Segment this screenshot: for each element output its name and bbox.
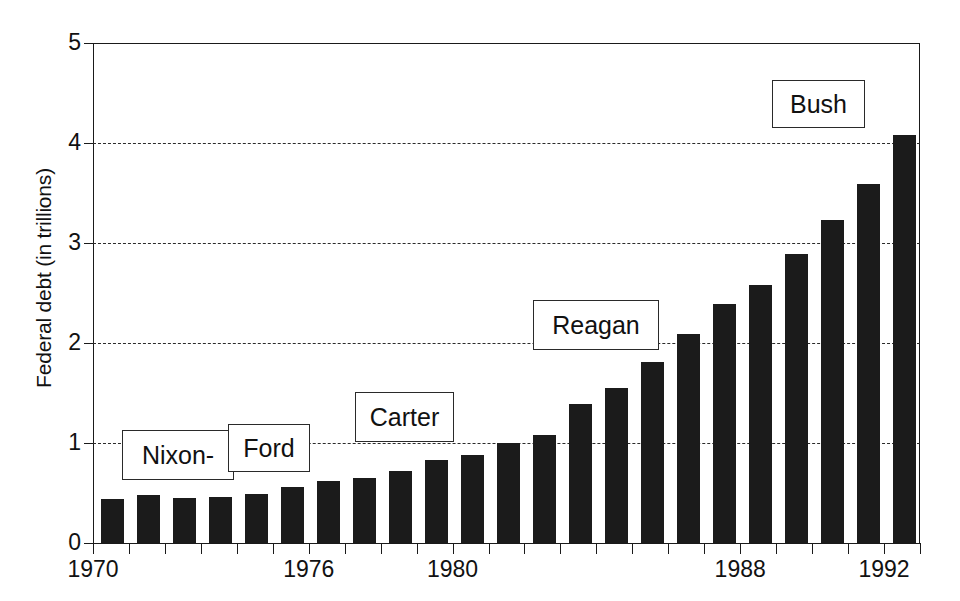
x-tick-mark-10 [453,543,454,554]
bar-1989 [785,254,808,543]
x-tick-label-1980: 1980 [408,556,498,582]
bar-1978 [389,471,412,543]
y-tick-label-4: 4 [25,131,81,154]
x-tick-label-1976: 1976 [264,556,354,582]
x-tick-mark-13 [560,543,561,554]
x-tick-mark-3 [201,543,202,554]
x-tick-mark-14 [596,543,597,554]
x-tick-label-1988: 1988 [695,556,785,582]
y-tick-mark-5 [84,43,93,44]
bar-1988 [749,285,772,543]
gridline-4 [93,143,920,144]
bar-1975 [281,487,304,543]
x-tick-mark-21 [848,543,849,554]
annotation-bush: Bush [772,80,865,128]
x-tick-label-1970: 1970 [48,556,138,582]
bar-1973 [209,497,232,543]
annotation-nixon: Nixon- [122,430,234,480]
x-tick-mark-18 [740,543,741,554]
bar-1972 [173,498,196,543]
x-tick-mark-9 [417,543,418,554]
annotation-reagan: Reagan [533,300,659,350]
annotation-ford: Ford [228,424,310,472]
x-tick-mark-17 [704,543,705,554]
y-tick-mark-2 [84,343,93,344]
bar-1970 [101,499,124,543]
x-axis-line [93,543,921,544]
x-tick-mark-7 [345,543,346,554]
bar-1971 [137,495,160,543]
federal-debt-bar-chart: Federal debt (in trillions) 012345 19701… [0,0,960,601]
plot-top-border [93,43,920,44]
bar-1992 [893,135,916,543]
x-tick-mark-15 [632,543,633,554]
y-tick-mark-4 [84,143,93,144]
gridline-3 [93,243,920,244]
x-tick-mark-0 [93,543,94,554]
bar-1987 [713,304,736,543]
y-tick-mark-3 [84,243,93,244]
x-tick-mark-5 [273,543,274,554]
x-tick-mark-4 [237,543,238,554]
y-tick-label-2: 2 [25,331,81,354]
bar-1982 [533,435,556,543]
x-tick-label-1992: 1992 [839,556,929,582]
y-tick-label-3: 3 [25,231,81,254]
y-tick-label-5: 5 [25,31,81,54]
x-tick-mark-2 [165,543,166,554]
x-tick-mark-19 [776,543,777,554]
y-tick-label-0: 0 [25,531,81,554]
x-tick-mark-22 [884,543,885,554]
y-tick-mark-1 [84,443,93,444]
x-tick-mark-1 [129,543,130,554]
bar-1981 [497,443,520,543]
annotation-carter: Carter [355,392,454,442]
x-tick-mark-23 [920,543,921,554]
bar-1983 [569,404,592,543]
bar-1976 [317,481,340,543]
x-tick-mark-20 [812,543,813,554]
bar-1990 [821,220,844,543]
bar-1991 [857,184,880,543]
bar-1985 [641,362,664,543]
y-tick-mark-0 [84,543,93,544]
bar-1977 [353,478,376,543]
bar-1980 [461,455,484,543]
x-tick-mark-6 [309,543,310,554]
plot-right-border [919,43,920,543]
bar-1984 [605,388,628,543]
bar-1986 [677,334,700,543]
bar-1974 [245,494,268,543]
bar-1979 [425,460,448,543]
x-tick-mark-8 [381,543,382,554]
x-tick-mark-12 [524,543,525,554]
y-tick-label-1: 1 [25,431,81,454]
x-tick-mark-11 [489,543,490,554]
x-tick-mark-16 [668,543,669,554]
